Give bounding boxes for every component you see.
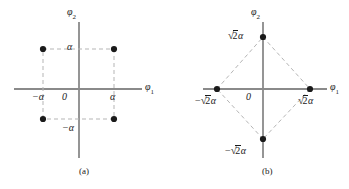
- y-tick-negative-a: −α: [62, 123, 74, 133]
- origin-label-a: 0: [62, 92, 67, 102]
- x-tick-positive-b: √2α: [298, 95, 313, 106]
- x-tick-negative-b: −√2α: [195, 95, 216, 106]
- sqrt-glyph: √2: [231, 145, 241, 156]
- signal-point: [260, 34, 266, 40]
- caption-a: (a): [79, 167, 89, 176]
- signal-point: [307, 86, 313, 92]
- x-axis-label-a: φ1: [145, 82, 154, 95]
- x-tick-negative-a: −α: [32, 92, 44, 102]
- panel-b: φ2 φ1 0 √2α −√2α √2α −√2α (b): [175, 0, 349, 189]
- sqrt-glyph: √2: [298, 95, 308, 106]
- sqrt-glyph: √2: [228, 30, 238, 41]
- origin-label-b: 0: [246, 92, 251, 102]
- signal-point: [111, 116, 117, 122]
- y-axis-label-a: φ2: [67, 7, 76, 20]
- signal-point: [40, 116, 46, 122]
- y-tick-positive-a: α: [67, 42, 72, 52]
- x-tick-positive-a: α: [110, 92, 115, 102]
- y-axis-label-b: φ2: [251, 7, 260, 20]
- signal-point: [260, 136, 266, 142]
- sqrt-glyph: √2: [201, 95, 211, 106]
- x-axis-label-b: φ1: [330, 82, 339, 95]
- signal-point: [214, 86, 220, 92]
- caption-b: (b): [262, 167, 273, 176]
- panel-a: φ2 φ1 0 α −α α −α (a): [0, 0, 175, 189]
- signal-point: [40, 46, 46, 52]
- figure-container: φ2 φ1 0 α −α α −α (a): [0, 0, 349, 189]
- y-tick-positive-b: √2α: [228, 30, 243, 41]
- signal-point: [111, 46, 117, 52]
- y-tick-negative-b: −√2α: [225, 145, 246, 156]
